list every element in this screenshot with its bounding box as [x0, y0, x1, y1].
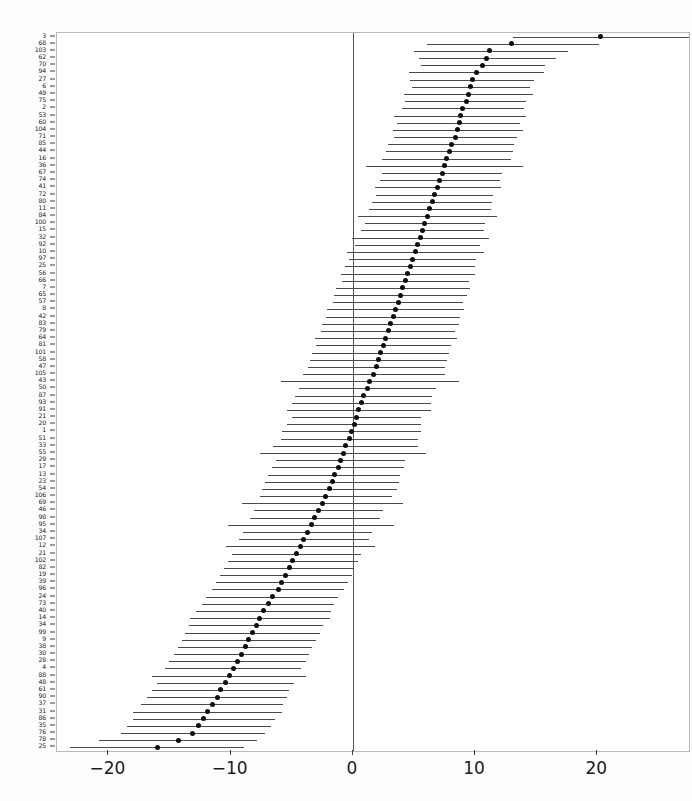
- estimate-point: [464, 99, 469, 104]
- y-axis-tick: [50, 143, 55, 144]
- estimate-point: [176, 738, 181, 743]
- y-axis-tick: [50, 667, 55, 668]
- estimate-point: [287, 565, 292, 570]
- estimate-point: [316, 508, 321, 513]
- x-axis: −20−1001020: [56, 750, 688, 800]
- y-axis-tick: [50, 229, 55, 230]
- x-axis-tick: [230, 750, 231, 755]
- estimate-point: [359, 400, 364, 405]
- y-axis-tick: [50, 279, 55, 280]
- estimate-point: [347, 436, 352, 441]
- y-axis-tick: [50, 78, 55, 79]
- y-axis-tick: [50, 157, 55, 158]
- y-axis-tick: [50, 452, 55, 453]
- estimate-point: [374, 364, 379, 369]
- estimate-point: [290, 558, 295, 563]
- y-axis-tick: [50, 487, 55, 488]
- y-axis: 3681036270942764975253601047185441636677…: [0, 32, 56, 750]
- y-axis-tick: [50, 179, 55, 180]
- estimate-point: [455, 127, 460, 132]
- y-axis-tick: [50, 696, 55, 697]
- y-axis-tick: [50, 509, 55, 510]
- estimate-point: [371, 372, 376, 377]
- estimate-point: [442, 163, 447, 168]
- estimate-point: [432, 192, 437, 197]
- y-axis-tick: [50, 107, 55, 108]
- x-axis-tick: [474, 750, 475, 755]
- y-axis-tick: [50, 329, 55, 330]
- estimate-point: [330, 479, 335, 484]
- forest-plot-figure: 3681036270942764975253601047185441636677…: [0, 0, 692, 801]
- estimate-point: [381, 343, 386, 348]
- y-axis-tick: [50, 42, 55, 43]
- y-axis-tick: [50, 408, 55, 409]
- y-axis-tick: [50, 588, 55, 589]
- y-axis-tick: [50, 609, 55, 610]
- y-axis-label: 25: [39, 743, 46, 749]
- y-axis-tick: [50, 258, 55, 259]
- estimate-point: [466, 92, 471, 97]
- estimate-point: [403, 278, 408, 283]
- estimate-point: [386, 328, 391, 333]
- x-axis-label: −10: [212, 758, 248, 778]
- estimate-point: [266, 601, 271, 606]
- y-axis-tick: [50, 531, 55, 532]
- y-axis-tick: [50, 523, 55, 524]
- estimate-point: [408, 264, 413, 269]
- y-axis-tick: [50, 624, 55, 625]
- estimate-point: [396, 300, 401, 305]
- estimate-point: [388, 321, 393, 326]
- y-axis-tick: [50, 444, 55, 445]
- y-axis-tick: [50, 128, 55, 129]
- y-axis-tick: [50, 401, 55, 402]
- x-axis-tick: [107, 750, 108, 755]
- estimate-point: [227, 673, 232, 678]
- y-axis-tick: [50, 423, 55, 424]
- y-axis-tick: [50, 322, 55, 323]
- y-axis-tick: [50, 100, 55, 101]
- y-axis-tick: [50, 732, 55, 733]
- estimate-point: [418, 235, 423, 240]
- y-axis-tick: [50, 380, 55, 381]
- y-axis-tick: [50, 186, 55, 187]
- estimate-point: [458, 113, 463, 118]
- y-axis-tick: [50, 653, 55, 654]
- y-axis-tick: [50, 502, 55, 503]
- y-axis-tick: [50, 631, 55, 632]
- y-axis-tick: [50, 746, 55, 747]
- y-axis-tick: [50, 93, 55, 94]
- y-axis-tick: [50, 35, 55, 36]
- estimate-point: [231, 666, 236, 671]
- y-axis-tick: [50, 480, 55, 481]
- y-axis-tick: [50, 351, 55, 352]
- y-axis-tick: [50, 294, 55, 295]
- y-axis-tick: [50, 337, 55, 338]
- estimate-point: [430, 199, 435, 204]
- y-axis-tick: [50, 250, 55, 251]
- estimate-point: [400, 285, 405, 290]
- estimate-point: [444, 156, 449, 161]
- estimate-point: [405, 271, 410, 276]
- estimate-point: [422, 221, 427, 226]
- estimate-point: [415, 242, 420, 247]
- estimate-point: [201, 716, 206, 721]
- y-axis-tick: [50, 645, 55, 646]
- estimate-point: [338, 458, 343, 463]
- estimate-point: [440, 171, 445, 176]
- x-axis-label: 10: [463, 758, 485, 778]
- y-axis-tick: [50, 121, 55, 122]
- y-axis-tick: [50, 265, 55, 266]
- y-axis-tick: [50, 617, 55, 618]
- estimate-point: [283, 573, 288, 578]
- x-axis-tick: [352, 750, 353, 755]
- estimate-point: [398, 293, 403, 298]
- y-axis-tick: [50, 71, 55, 72]
- estimate-point: [383, 336, 388, 341]
- estimate-point: [367, 379, 372, 384]
- estimate-point: [453, 135, 458, 140]
- estimate-point: [223, 680, 228, 685]
- y-axis-tick: [50, 344, 55, 345]
- estimate-point: [294, 551, 299, 556]
- estimate-point: [410, 257, 415, 262]
- estimate-point: [474, 70, 479, 75]
